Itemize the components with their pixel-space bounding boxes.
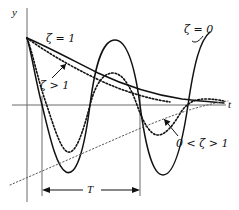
zeta-equals-zero-pointer [192, 36, 203, 42]
underdamped-pointer [164, 119, 178, 136]
underdamped-range-label: 0 < ζ > 1 [176, 138, 228, 149]
damped-oscillation-figure: y t ζ = 1 ζ = 0 ζ > 1 0 < ζ > 1 T [0, 0, 239, 210]
period-label: T [87, 184, 93, 195]
curve-zeta-equals-zero [27, 32, 210, 175]
zeta-equals-one-label: ζ = 1 [46, 33, 75, 44]
curve-underdamped-oscillation [27, 38, 224, 152]
zeta-greater-than-one-label: ζ > 1 [40, 80, 69, 91]
zeta-equals-zero-label: ζ = 0 [184, 24, 213, 35]
t-axis-label: t [228, 99, 231, 110]
y-axis-label: y [12, 7, 17, 18]
zeta-greater-than-one-pointer [52, 64, 66, 78]
